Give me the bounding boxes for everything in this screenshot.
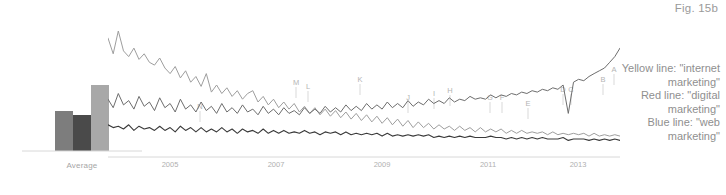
bar-0 bbox=[55, 111, 73, 151]
annotation-marker-E: E bbox=[525, 99, 530, 108]
annotation-marker-layer: NMLKJIHGFEDCBA bbox=[197, 65, 616, 122]
series-line-digital-marketing bbox=[108, 48, 620, 115]
annotation-marker-F: F bbox=[500, 93, 505, 102]
figure-container: Fig. 15b Average NMLKJIHGFEDCBA 20052007… bbox=[0, 0, 726, 195]
annotation-marker-L: L bbox=[306, 82, 310, 91]
series-line-internet-marketing bbox=[108, 31, 620, 136]
annotation-marker-H: H bbox=[447, 86, 452, 95]
x-tick-2009: 2009 bbox=[374, 160, 391, 169]
legend-entry-yellow: Yellow line: "internet marketing" bbox=[616, 62, 720, 89]
figure-number-label: Fig. 15b bbox=[675, 2, 718, 14]
x-tick-2013: 2013 bbox=[570, 160, 587, 169]
annotation-marker-B: B bbox=[600, 75, 605, 84]
trends-line-plot: NMLKJIHGFEDCBA bbox=[108, 8, 620, 158]
legend: Yellow line: "internet marketing" Red li… bbox=[616, 62, 720, 143]
bar-2 bbox=[91, 85, 109, 151]
x-tick-2005: 2005 bbox=[162, 160, 179, 169]
legend-entry-blue: Blue line: "web marketing" bbox=[616, 116, 720, 143]
legend-entry-red: Red line: "digital marketing" bbox=[616, 89, 720, 116]
annotation-marker-M: M bbox=[293, 78, 299, 87]
plot-svg: NMLKJIHGFEDCBA bbox=[108, 8, 620, 158]
annotation-marker-I: I bbox=[433, 89, 435, 98]
x-axis-ticks: 20052007200920112013 bbox=[108, 156, 620, 176]
x-tick-2007: 2007 bbox=[268, 160, 285, 169]
bar-1 bbox=[73, 115, 91, 151]
annotation-marker-K: K bbox=[357, 75, 362, 84]
x-tick-2011: 2011 bbox=[480, 160, 496, 169]
